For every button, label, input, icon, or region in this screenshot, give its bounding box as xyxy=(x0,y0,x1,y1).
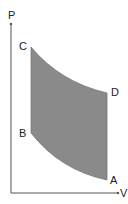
point-label-a: A xyxy=(110,174,118,186)
y-axis-label: P xyxy=(8,9,15,21)
y-axis-arrow-icon xyxy=(10,23,12,25)
point-label-b: B xyxy=(19,127,26,139)
x-axis-arrow-icon xyxy=(117,192,119,194)
pv-diagram: P V C D B A xyxy=(0,0,128,204)
cycle-region xyxy=(31,47,107,180)
point-label-c: C xyxy=(19,40,27,52)
x-axis-label: V xyxy=(120,187,128,199)
point-label-d: D xyxy=(111,86,119,98)
